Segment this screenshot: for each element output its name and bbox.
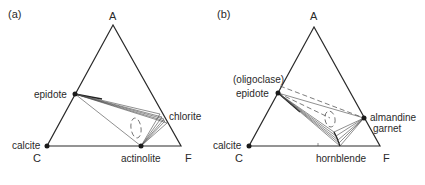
panel-a-calcite-label: calcite <box>12 140 41 151</box>
panel-b-garnet-label: garnet <box>373 123 402 134</box>
vertex-c-left: C <box>235 152 243 164</box>
panel-b-epidote-point <box>276 91 281 96</box>
vertex-f-right: F <box>185 152 192 164</box>
panel-a-label: (a) <box>8 8 21 20</box>
panel-b-almandine-label: almandine <box>370 112 417 123</box>
panel-b-hornblende-label: hornblende <box>316 153 366 164</box>
panel-a-triangle <box>47 25 181 146</box>
panel-b-tielines-epidote-hornblende <box>278 93 340 146</box>
panel-a-actinolite-point <box>139 144 144 149</box>
panel-b-almandine-point <box>362 116 367 121</box>
panel-a-epidote-label: epidote <box>34 89 67 100</box>
vertex-c-left: C <box>33 152 41 164</box>
vertex-a-top: A <box>109 10 117 22</box>
panel-b-epidote-label: epidote <box>236 88 269 99</box>
panel-b-calcite-point <box>247 144 252 149</box>
panel-b-label: (b) <box>217 8 230 20</box>
panel-b-dashed-field <box>324 110 337 127</box>
panel-b-oligoclase-label: (oligoclase) <box>233 74 284 85</box>
vertex-a-top: A <box>310 10 318 22</box>
panel-b-calcite-label: calcite <box>213 140 242 151</box>
panel-a-actinolite-label: actinolite <box>121 153 161 164</box>
panel-a-chlorite-label: chlorite <box>169 111 202 122</box>
panel-a: (a) A C F epidote chlorite cal <box>8 8 202 164</box>
panel-a-epidote-point <box>73 92 78 97</box>
panel-a-tielines-epidote-chlorite <box>75 94 167 123</box>
panel-b-tieline-epidote-garnet <box>278 93 364 118</box>
panel-a-dashed-field <box>130 117 143 138</box>
panel-a-calcite-point <box>45 144 50 149</box>
vertex-f-right: F <box>383 152 390 164</box>
panel-b-dashed-oligoclase-garnet <box>280 86 364 118</box>
panel-b-triangle <box>249 27 380 146</box>
acf-diagrams: (a) A C F epidote chlorite cal <box>0 0 425 185</box>
panel-b: (b) A C F <box>213 8 417 164</box>
